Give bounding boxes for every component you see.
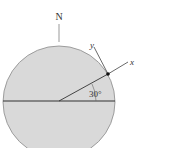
location-point bbox=[106, 72, 110, 76]
earth-diagram: N x y 30° bbox=[0, 0, 196, 148]
north-label: N bbox=[56, 11, 63, 22]
x-axis-line bbox=[108, 62, 128, 74]
x-axis-label: x bbox=[129, 57, 134, 67]
angle-label: 30° bbox=[89, 89, 102, 99]
y-axis-label: y bbox=[89, 40, 94, 50]
